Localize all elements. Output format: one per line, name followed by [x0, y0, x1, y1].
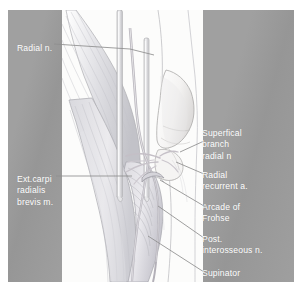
label-ext-carpi-radialis-brevis: Ext.carpi radialis brevis m. — [17, 174, 53, 208]
label-arcade-of-frohse: Arcade of Frohse — [195, 202, 290, 225]
anatomical-illustration — [62, 10, 203, 282]
illustration-drawing — [62, 10, 203, 282]
label-post-interosseous-n: Post. interosseous n. — [195, 234, 290, 257]
label-radial-n: Radial n. — [17, 43, 52, 54]
anatomy-figure: Radial n. Ext.carpi radialis brevis m. S… — [8, 10, 294, 282]
label-superficial-branch-radial-n: Superfical branch radial n — [195, 128, 290, 162]
label-radial-recurrent-a: Radial recurrent a. — [195, 170, 290, 193]
label-supinator: Supinator — [195, 268, 290, 279]
